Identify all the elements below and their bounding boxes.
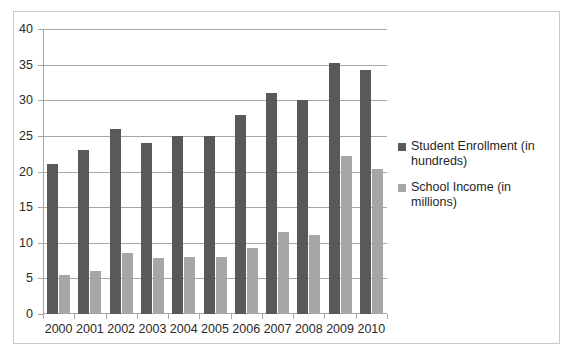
x-axis-tick (356, 314, 357, 319)
y-axis-tick (38, 172, 43, 173)
x-axis-label-2005: 2005 (201, 322, 229, 336)
bar-enrollment-2000 (47, 164, 58, 314)
bar-income-2008 (309, 235, 320, 314)
y-axis-line (43, 29, 44, 314)
bar-enrollment-2006 (235, 115, 246, 315)
x-axis-label-2004: 2004 (170, 322, 198, 336)
y-axis-tick (38, 65, 43, 66)
bar-enrollment-2005 (204, 136, 215, 314)
gridline (43, 29, 387, 30)
plot-area (43, 29, 387, 314)
legend-swatch-icon-school-income (398, 184, 406, 192)
bar-income-2003 (153, 258, 164, 314)
y-axis-tick-label: 25 (0, 129, 33, 143)
x-axis-tick (324, 314, 325, 319)
bar-enrollment-2010 (360, 70, 371, 314)
bar-income-2009 (341, 156, 352, 314)
y-axis-tick-label: 5 (0, 271, 33, 285)
y-axis-tick-label: 10 (0, 236, 33, 250)
y-axis-tick (38, 207, 43, 208)
x-axis-tick (231, 314, 232, 319)
y-axis-tick-label: 20 (0, 165, 33, 179)
bar-enrollment-2008 (297, 100, 308, 314)
bar-enrollment-2009 (329, 63, 340, 314)
bar-income-2002 (122, 253, 133, 314)
x-axis-label-2000: 2000 (45, 322, 73, 336)
bar-income-2006 (247, 248, 258, 314)
legend-item-student-enrollment: Student Enrollment (in hundreds) (398, 139, 558, 169)
y-axis-tick-label: 35 (0, 58, 33, 72)
x-axis-label-2010: 2010 (357, 322, 385, 336)
chart-legend: Student Enrollment (in hundreds) School … (398, 139, 558, 221)
bar-enrollment-2003 (141, 143, 152, 314)
y-axis-tick-label: 30 (0, 93, 33, 107)
bar-income-2010 (372, 169, 383, 314)
bar-chart-figure: 0510152025303540 20002001200220032004200… (0, 0, 573, 361)
y-axis-tick (38, 278, 43, 279)
x-axis-label-2009: 2009 (326, 322, 354, 336)
x-axis-tick (293, 314, 294, 319)
legend-swatch-icon-student-enrollment (398, 143, 406, 151)
y-axis-tick-label: 0 (0, 307, 33, 321)
y-axis-tick-label: 40 (0, 22, 33, 36)
bar-enrollment-2002 (110, 129, 121, 314)
bar-income-2007 (278, 232, 289, 314)
bar-enrollment-2001 (78, 150, 89, 314)
y-axis-tick (38, 29, 43, 30)
x-axis-tick (168, 314, 169, 319)
x-axis-label-2006: 2006 (232, 322, 260, 336)
x-axis-label-2008: 2008 (295, 322, 323, 336)
x-axis-tick (262, 314, 263, 319)
bar-income-2000 (59, 275, 70, 314)
x-axis-label-2001: 2001 (76, 322, 104, 336)
y-axis-tick (38, 136, 43, 137)
x-axis-tick (137, 314, 138, 319)
bar-income-2005 (216, 257, 227, 314)
x-axis-label-2003: 2003 (139, 322, 167, 336)
x-axis-label-2002: 2002 (107, 322, 135, 336)
legend-item-school-income: School Income (in millions) (398, 180, 558, 210)
bar-enrollment-2007 (266, 93, 277, 314)
x-axis-tick (74, 314, 75, 319)
y-axis-tick-label: 15 (0, 200, 33, 214)
x-axis-tick (199, 314, 200, 319)
bar-income-2004 (184, 257, 195, 314)
legend-label-student-enrollment: Student Enrollment (in hundreds) (411, 139, 558, 169)
y-axis-tick (38, 100, 43, 101)
legend-label-school-income: School Income (in millions) (411, 180, 558, 210)
bar-enrollment-2004 (172, 136, 183, 314)
x-axis-label-2007: 2007 (264, 322, 292, 336)
x-axis-tick (387, 314, 388, 319)
x-axis-tick (106, 314, 107, 319)
bar-income-2001 (90, 271, 101, 314)
x-axis-tick (43, 314, 44, 319)
y-axis-tick (38, 243, 43, 244)
